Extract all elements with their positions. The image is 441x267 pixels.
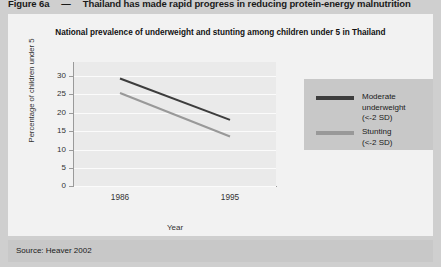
- y-tick-label-25: 25: [44, 90, 66, 98]
- legend-label-line-1: Stunting: [362, 127, 392, 138]
- y-tick-25: 25: [42, 90, 66, 98]
- legend-label-line-3: (<-2 SD): [362, 113, 406, 124]
- chart-title: National prevalence of underweight and s…: [8, 28, 433, 37]
- legend-label-line-2: (<-2 SD): [362, 138, 392, 149]
- legend-swatch-moderate-underweight: [316, 96, 354, 100]
- y-tick-10: 10: [42, 146, 66, 154]
- figure-headline: Thailand has made rapid progress in redu…: [83, 0, 411, 9]
- y-tick-label-0: 0: [44, 182, 66, 190]
- y-tick-20: 20: [42, 109, 66, 117]
- source-text: Source: Heaver 2002: [16, 246, 92, 255]
- chart-panel: National prevalence of underweight and s…: [8, 14, 433, 236]
- series-layer: [74, 62, 276, 186]
- y-tick-label-15: 15: [44, 127, 66, 135]
- legend-label-moderate-underweight: Moderate underweight (<-2 SD): [362, 92, 406, 124]
- legend-label-line-2: underweight: [362, 103, 406, 114]
- plot-area: [74, 62, 276, 186]
- y-axis-title: Percentage of children under 5: [27, 36, 36, 146]
- y-tick-label-20: 20: [44, 109, 66, 117]
- x-tick-label-1986: 1986: [100, 192, 140, 202]
- y-tick-label-10: 10: [44, 146, 66, 154]
- y-tick-15: 15: [42, 127, 66, 135]
- legend-label-stunting: Stunting (<-2 SD): [362, 127, 392, 148]
- x-tick-label-1995: 1995: [210, 192, 250, 202]
- x-axis-title: Year: [74, 223, 276, 232]
- gridline-0: [74, 186, 276, 187]
- source-band: Source: Heaver 2002: [8, 240, 433, 262]
- y-tick-label-30: 30: [44, 72, 66, 80]
- y-tick-5: 5: [42, 164, 66, 172]
- figure-container: Figure 6a—Thailand has made rapid progre…: [0, 0, 441, 267]
- y-tick-label-5: 5: [44, 164, 66, 172]
- figure-dash: —: [61, 0, 70, 9]
- figure-header-band: Figure 6a—Thailand has made rapid progre…: [0, 0, 441, 12]
- y-tick-0: 0: [42, 182, 66, 190]
- y-tick-30: 30: [42, 72, 66, 80]
- figure-number: Figure 6a: [8, 0, 49, 9]
- figure-header-text: Figure 6a—Thailand has made rapid progre…: [8, 0, 411, 9]
- legend-label-line-1: Moderate: [362, 92, 406, 103]
- chart-legend: Moderate underweight (<-2 SD) Stunting (…: [304, 79, 433, 150]
- legend-swatch-stunting: [316, 131, 354, 135]
